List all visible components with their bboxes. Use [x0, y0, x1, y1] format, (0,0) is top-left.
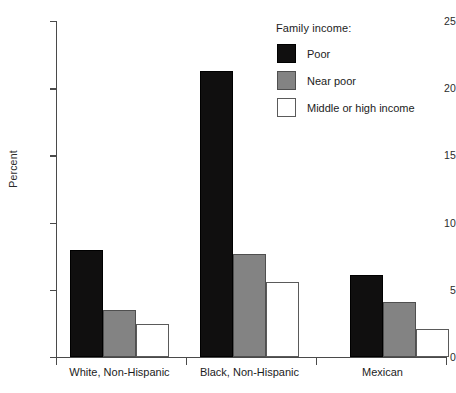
legend-item-near-poor: Near poor	[276, 68, 452, 93]
y-tick-10	[50, 223, 56, 224]
bar-black-near-poor	[233, 254, 266, 358]
chart-legend: Family income: Poor Near poor Middle or …	[276, 22, 452, 122]
bar-white-poor	[70, 250, 103, 358]
bar-mexican-near-poor	[383, 302, 416, 357]
y-tick-15	[50, 155, 56, 156]
legend-label-poor: Poor	[307, 48, 330, 60]
x-tick-start	[56, 358, 57, 365]
x-label-black-non-hispanic: Black, Non-Hispanic	[181, 366, 318, 378]
y-tick-5	[50, 290, 56, 291]
bar-white-near-poor	[103, 310, 136, 357]
bar-black-middle-high	[266, 282, 299, 357]
legend-label-middle-high: Middle or high income	[307, 102, 415, 114]
y-tick-label-5: 5	[412, 284, 456, 296]
bar-white-middle-high	[136, 324, 169, 357]
y-axis-title: Percent	[7, 134, 19, 204]
x-axis-line	[56, 357, 447, 358]
y-axis-line	[56, 21, 57, 358]
y-tick-20	[50, 88, 56, 89]
legend-swatch-middle-high-icon	[277, 98, 296, 117]
legend-title: Family income:	[276, 22, 452, 34]
x-tick-end	[446, 358, 447, 365]
y-tick-label-15: 15	[412, 149, 456, 161]
y-tick-25	[50, 21, 56, 22]
legend-swatch-poor-icon	[277, 44, 296, 63]
legend-label-near-poor: Near poor	[307, 75, 356, 87]
x-tick-group-1	[186, 358, 187, 365]
legend-item-middle-high: Middle or high income	[276, 95, 452, 120]
bar-mexican-middle-high	[416, 329, 449, 357]
legend-swatch-near-poor-icon	[277, 71, 296, 90]
y-tick-label-10: 10	[412, 217, 456, 229]
legend-item-poor: Poor	[276, 41, 452, 66]
x-label-white-non-hispanic: White, Non-Hispanic	[51, 366, 188, 378]
x-tick-group-2	[316, 358, 317, 365]
chart-page: 25 20 15 10 5 0 Percent White, Non-Hispa…	[0, 0, 456, 393]
bar-black-poor	[200, 71, 233, 357]
x-label-mexican: Mexican	[314, 366, 451, 378]
bar-mexican-poor	[350, 275, 383, 357]
